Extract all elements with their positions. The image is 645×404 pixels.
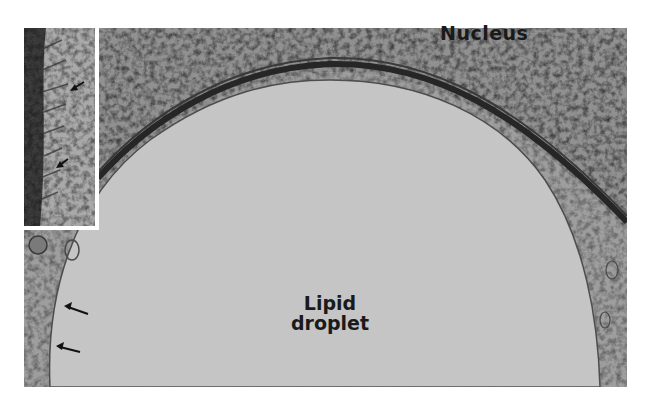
electron-micrograph: Nucleus Lipid droplet: [0, 0, 645, 404]
lipid-label-line2: droplet: [270, 314, 390, 334]
inset-panel: [24, 28, 99, 230]
lipid-droplet-label: Lipid droplet: [270, 294, 390, 334]
lipid-label-line1: Lipid: [270, 294, 390, 314]
micrograph-image: [0, 0, 645, 404]
vesicle: [29, 236, 47, 254]
nucleus-label: Nucleus: [440, 24, 528, 44]
